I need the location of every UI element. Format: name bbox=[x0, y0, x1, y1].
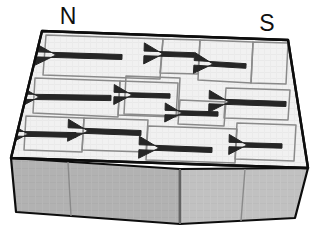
magnet-block bbox=[9, 31, 308, 224]
block-front-face bbox=[11, 158, 180, 224]
magnetic-domains-figure: N S bbox=[0, 0, 321, 232]
north-pole-label: N bbox=[60, 3, 77, 29]
diagram-canvas: N S bbox=[0, 0, 321, 232]
south-pole-label: S bbox=[259, 10, 274, 36]
